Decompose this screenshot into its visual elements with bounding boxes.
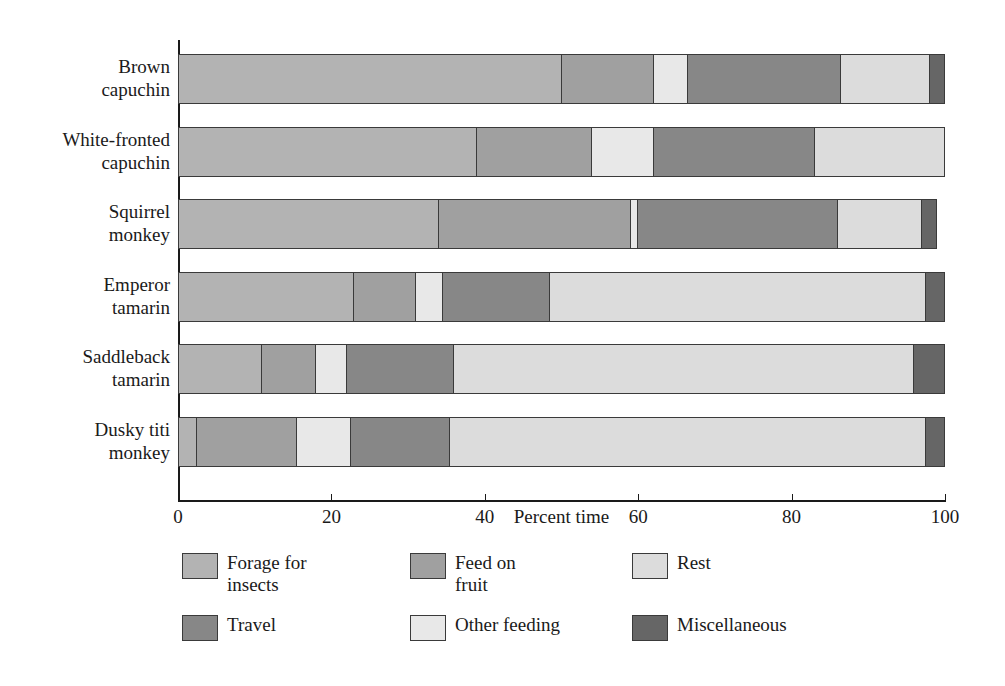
plot-area: 020406080100: [178, 40, 945, 500]
legend-swatch: [410, 553, 446, 579]
bar-segment: [197, 417, 297, 467]
bar-segment: [178, 199, 439, 249]
bar-track: [178, 199, 945, 249]
bar-segment: [841, 54, 929, 104]
x-axis-tick: [792, 494, 793, 502]
category-label: Squirrel monkey: [0, 200, 170, 246]
bar-segment: [454, 344, 914, 394]
bar-segment: [838, 199, 922, 249]
stacked-bar: [178, 54, 945, 104]
bar-segment: [477, 127, 592, 177]
legend-label: Miscellaneous: [677, 614, 787, 636]
bar-segment: [178, 127, 477, 177]
bar-segment: [922, 199, 937, 249]
bar-segment: [592, 127, 653, 177]
stacked-bar: [178, 344, 945, 394]
legend-swatch: [632, 553, 668, 579]
bar-segment: [178, 54, 562, 104]
bar-segment: [262, 344, 316, 394]
category-label: Brown capuchin: [0, 55, 170, 101]
bar-segment: [562, 54, 654, 104]
bar-track: [178, 272, 945, 322]
bar-segment: [178, 417, 197, 467]
bar-segment: [450, 417, 926, 467]
bar-segment: [297, 417, 351, 467]
bar-segment: [178, 344, 262, 394]
legend-swatch: [182, 615, 218, 641]
bar-segment: [416, 272, 443, 322]
legend-swatch: [410, 615, 446, 641]
stacked-bar: [178, 417, 945, 467]
legend-label: Rest: [677, 552, 711, 574]
category-label: Dusky titi monkey: [0, 418, 170, 464]
bar-segment: [654, 54, 689, 104]
category-label: Emperor tamarin: [0, 273, 170, 319]
legend-item: Travel: [182, 614, 276, 641]
legend-label: Other feeding: [455, 614, 560, 636]
legend-label: Forage for insects: [227, 552, 307, 596]
legend-item: Rest: [632, 552, 711, 579]
category-label: White-fronted capuchin: [0, 128, 170, 174]
x-axis-label: Percent time: [178, 506, 945, 528]
legend-label: Travel: [227, 614, 276, 636]
bar-segment: [443, 272, 550, 322]
bar-segment: [550, 272, 926, 322]
x-axis-tick: [638, 494, 639, 502]
figure: 020406080100 Brown capuchinWhite-fronted…: [0, 0, 1005, 686]
bar-segment: [926, 272, 945, 322]
legend-item: Forage for insects: [182, 552, 307, 596]
category-label: Saddleback tamarin: [0, 345, 170, 391]
bar-segment: [638, 199, 837, 249]
bar-segment: [631, 199, 639, 249]
bar-segment: [347, 344, 454, 394]
bar-segment: [178, 272, 354, 322]
x-axis-tick: [178, 494, 179, 502]
bar-segment: [439, 199, 631, 249]
bar-segment: [354, 272, 415, 322]
bar-segment: [316, 344, 347, 394]
bar-segment: [351, 417, 451, 467]
x-axis-tick: [945, 494, 946, 502]
bar-segment: [926, 417, 945, 467]
bar-segment: [688, 54, 841, 104]
legend-swatch: [632, 615, 668, 641]
legend: Forage for insectsFeed on fruitRestTrave…: [182, 552, 822, 652]
legend-swatch: [182, 553, 218, 579]
x-axis-tick: [331, 494, 332, 502]
stacked-bar: [178, 199, 945, 249]
bar-track: [178, 54, 945, 104]
x-axis-line: [178, 500, 945, 502]
bar-track: [178, 127, 945, 177]
bar-track: [178, 344, 945, 394]
bar-segment: [914, 344, 945, 394]
legend-item: Feed on fruit: [410, 552, 516, 596]
legend-item: Other feeding: [410, 614, 560, 641]
legend-label: Feed on fruit: [455, 552, 516, 596]
bar-segment: [654, 127, 815, 177]
bar-track: [178, 417, 945, 467]
stacked-bar: [178, 272, 945, 322]
legend-item: Miscellaneous: [632, 614, 787, 641]
bar-segment: [930, 54, 945, 104]
bar-segment: [815, 127, 945, 177]
stacked-bar: [178, 127, 945, 177]
x-axis-tick: [485, 494, 486, 502]
